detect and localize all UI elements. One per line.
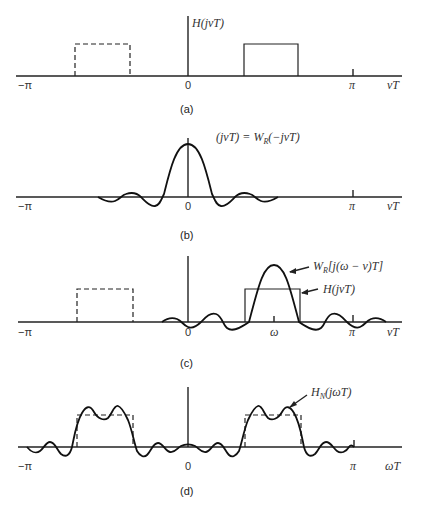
pi-label: π [349,78,356,92]
pi-label: π [350,459,357,473]
mirrored-passband-rect [75,44,130,76]
caption: (d) [180,485,193,497]
axis-label: νT [387,325,400,339]
caption: (a) [180,103,193,115]
caption: (b) [180,229,193,241]
panel-d: HN(jωT) −π 0 π ωT (d) [18,385,402,497]
window-label: WR[j(ω − ν)T] [313,259,383,275]
passband-rect [244,44,298,76]
caption: (c) [180,357,193,369]
panel-c: WR[j(ω − ν)T] H(jνT) −π 0 ω π νT (c) [18,256,402,369]
axis-label: ωT [385,459,401,473]
windowed-filter-curve [27,406,354,456]
result-label: HN(jωT) [310,385,352,401]
neg-pi-label: −π [18,79,32,91]
zero-label: 0 [185,326,191,338]
zero-label: 0 [185,79,191,91]
mirrored-passband-rect [77,289,133,322]
omega-label: ω [270,325,278,339]
neg-pi-label: −π [18,460,32,472]
window-pointer-arrow [289,268,296,274]
pi-label: π [349,325,356,339]
neg-pi-label: −π [18,200,32,212]
zero-label: 0 [185,200,191,212]
zero-label: 0 [185,460,191,472]
filter-pointer-arrow [301,289,308,295]
windowing-diagram: H(jνT) −π 0 π νT (a) (jνT) = WR(−jνT) −π… [0,0,421,508]
pi-label: π [349,199,356,213]
function-label: (jνT) = WR(−jνT) [216,130,300,146]
panel-b: (jνT) = WR(−jνT) −π 0 π νT (b) [16,130,402,241]
panel-a: H(jνT) −π 0 π νT (a) [16,16,402,115]
axis-label: νT [387,78,400,92]
filter-label: H(jνT) [322,282,355,296]
neg-pi-label: −π [18,326,32,338]
function-label: H(jνT) [191,16,224,30]
axis-label: νT [387,199,400,213]
